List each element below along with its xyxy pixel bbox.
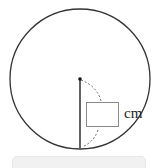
answer-box[interactable] — [86, 102, 119, 127]
radius-brace-upper — [81, 80, 101, 101]
circle-diagram — [0, 0, 160, 168]
answer-input-bar[interactable] — [12, 156, 146, 168]
radius-brace-lower — [82, 130, 98, 147]
unit-label: cm — [124, 104, 142, 122]
